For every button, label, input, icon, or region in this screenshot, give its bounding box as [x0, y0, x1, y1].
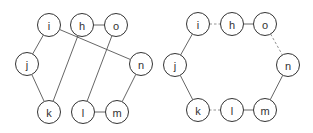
node-l: l	[72, 101, 95, 124]
left-graph: ihojnklm	[16, 14, 153, 124]
node-h: h	[221, 13, 244, 36]
edge-i-j	[33, 35, 44, 54]
node-label: j	[25, 59, 28, 71]
edge-i-j	[181, 34, 193, 55]
node-h: h	[71, 14, 94, 37]
node-m: m	[106, 101, 129, 124]
edge-o-n	[271, 34, 283, 55]
node-label: m	[260, 105, 269, 117]
node-k: k	[187, 99, 210, 122]
node-o: o	[105, 14, 128, 37]
edge-h-k	[53, 36, 78, 101]
node-label: l	[82, 107, 84, 119]
node-n: n	[130, 53, 153, 76]
node-o: o	[254, 13, 277, 36]
node-k: k	[38, 101, 61, 124]
edge-o-l	[87, 36, 112, 101]
node-label: k	[195, 105, 201, 117]
right-graph: ihojnklm	[164, 13, 300, 122]
node-label: o	[113, 20, 119, 32]
graph-diagram: ihojnklm ihojnklm	[0, 0, 313, 133]
node-i: i	[187, 13, 210, 36]
edge-m-n	[122, 74, 136, 101]
node-label: m	[112, 107, 121, 119]
node-label: h	[229, 19, 235, 31]
edge-k-j	[180, 75, 193, 100]
node-l: l	[221, 99, 244, 122]
node-label: k	[46, 107, 52, 119]
node-label: j	[173, 60, 176, 72]
edge-n-m	[270, 75, 283, 100]
node-label: i	[197, 19, 199, 31]
node-label: h	[79, 20, 85, 32]
node-n: n	[277, 54, 300, 77]
node-m: m	[254, 99, 277, 122]
node-label: i	[48, 20, 50, 32]
node-label: o	[262, 19, 268, 31]
node-j: j	[164, 54, 187, 77]
node-j: j	[16, 53, 39, 76]
node-label: l	[231, 105, 233, 117]
node-i: i	[38, 14, 61, 37]
node-label: n	[285, 60, 291, 72]
node-label: n	[138, 59, 144, 71]
edge-j-k	[32, 74, 44, 101]
